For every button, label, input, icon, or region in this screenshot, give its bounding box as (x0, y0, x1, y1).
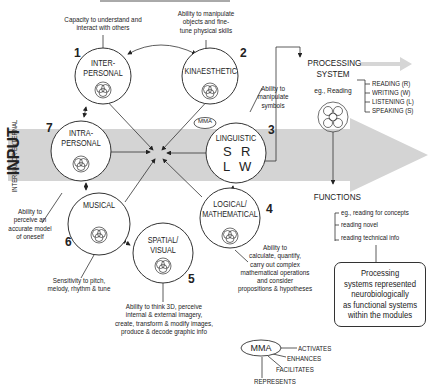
legend-enhances: ENHANCES (287, 355, 321, 363)
interpersonal-description: Capacity to understand andinteract with … (50, 16, 156, 33)
interpersonal-label: INTER-PERSONAL (78, 59, 129, 79)
musical-label: MUSICAL (74, 201, 125, 211)
input-subtitle: INTERNAL OR EXTERNAL (11, 118, 19, 195)
processing-example: eg., Reading (314, 87, 353, 96)
functions-items: eg., reading for concepts reading novel … (341, 209, 409, 242)
letter-w: W (239, 160, 251, 175)
processing-system-title: PROCESSINGSYSTEM (308, 58, 359, 80)
item-reading: READING (R) (372, 80, 414, 89)
module-number-5: 5 (188, 273, 195, 287)
function-item: reading technical info (341, 234, 409, 242)
legend-mma: MMA (245, 343, 277, 353)
mma-tag: MMA (197, 118, 213, 125)
spatial-description: Ability to think 3D, perceiveinternal & … (115, 303, 214, 336)
item-writing: WRITING (W) (372, 89, 414, 98)
circle-linguistic (206, 123, 266, 183)
logical-label: LOGICAL/MATHEMATICAL (200, 200, 260, 220)
module-number-3: 3 (268, 124, 275, 138)
processing-output-arrow (360, 57, 412, 71)
function-item: eg., reading for concepts (341, 209, 409, 221)
module-number-7: 7 (46, 122, 53, 136)
letter-s: S (223, 145, 232, 160)
letter-r: R (241, 145, 250, 160)
linguistic-label: LINGUISTIC (211, 134, 262, 144)
logical-description: Ability tocalculate, quantify,carry out … (231, 244, 319, 294)
legend-activates: ACTIVATES (298, 345, 331, 353)
multiple-intelligences-diagram: INPUT INTERNAL OR EXTERNAL Capacity to u… (0, 0, 428, 387)
linguistic-description: Ability tomanipulatesymbols (251, 85, 295, 110)
intrapersonal-description: Ability toperceive anaccurate modelof on… (7, 208, 53, 241)
kinaesthetic-description: Ability to manipulateobjects and fine-tu… (171, 10, 241, 35)
spatial-label: SPATIAL/VISUAL (138, 236, 189, 256)
musical-description: Sensitivity to pitch,melody, rhythm & tu… (39, 277, 120, 294)
processing-items: READING (R) WRITING (W) LISTENING (L) SP… (372, 80, 414, 116)
diagram-graphics (0, 0, 428, 387)
legend-facilitates: FACILITATES (276, 366, 314, 374)
module-number-4: 4 (266, 203, 273, 217)
letter-l: L (223, 160, 230, 175)
functions-title: FUNCTIONS (314, 192, 357, 203)
legend-represents: REPRESENTS (254, 378, 296, 386)
item-listening: LISTENING (L) (372, 98, 414, 107)
kinaesthetic-label: KINAESTHETIC (185, 67, 236, 77)
processing-note-box: Processingsystems representedneurobiolog… (334, 262, 426, 327)
module-number-6: 6 (65, 236, 72, 250)
module-number-2: 2 (240, 47, 247, 61)
function-item: reading novel (341, 221, 409, 234)
item-speaking: SPEAKING (S) (372, 107, 414, 116)
intrapersonal-label: INTRA-PERSONAL (56, 129, 107, 149)
